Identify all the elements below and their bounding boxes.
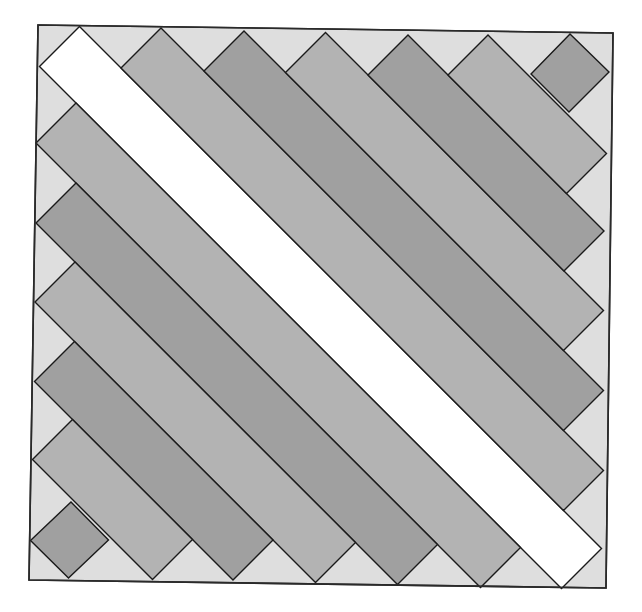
diagonal-strips bbox=[31, 27, 610, 589]
quilt-diagram: Square quilt block of diagonal strips bbox=[0, 0, 642, 612]
